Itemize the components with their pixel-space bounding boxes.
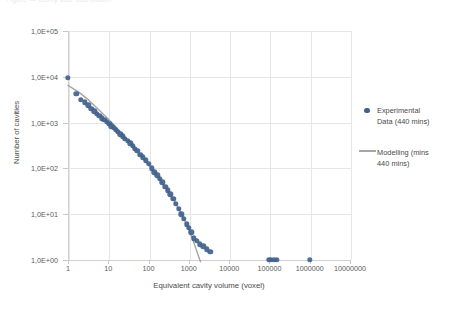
data-point [307, 257, 312, 262]
x-tick-label: 100 [143, 264, 155, 273]
y-tick-label: 1,0E+04 [0, 72, 58, 81]
x-tick-label: 1 [66, 264, 70, 273]
gridline-vertical [311, 31, 312, 260]
chart-container: Figure — cavity size distribution 1,0E+0… [0, 0, 457, 312]
gridline-vertical [69, 31, 70, 260]
gridline-horizontal [69, 214, 351, 215]
y-tick-mark [63, 123, 68, 124]
legend-item-experimental[interactable]: Experimental Data (440 mins) [357, 106, 455, 127]
x-tick-label: 1000 [181, 264, 197, 273]
gridline-vertical [351, 31, 352, 260]
y-tick-mark [63, 168, 68, 169]
y-tick-label: 1,0E+03 [0, 118, 58, 127]
y-tick-label: 1,0E+00 [0, 256, 58, 265]
gridline-horizontal [69, 31, 351, 32]
x-tick-label: 10 [104, 264, 112, 273]
x-tick-label: 10000000 [334, 264, 366, 273]
gridline-horizontal [69, 77, 351, 78]
gridline-vertical [270, 31, 271, 260]
legend-label-experimental: Experimental Data (440 mins) [377, 106, 430, 127]
plot-area [68, 31, 351, 260]
data-point [274, 257, 279, 262]
x-tick-label: 1000000 [296, 264, 324, 273]
y-tick-label: 1,0E+02 [0, 164, 58, 173]
legend-line-marker-icon [357, 148, 377, 152]
caption-remnant: Figure — cavity size distribution [6, 0, 111, 3]
legend-dot-marker-icon [357, 106, 377, 113]
x-axis-title: Equivalent cavity volume (voxel) [68, 281, 350, 290]
gridline-vertical [150, 31, 151, 260]
gridline-vertical [230, 31, 231, 260]
y-tick-mark [63, 31, 68, 32]
y-tick-mark [63, 214, 68, 215]
x-tick-label: 100000 [257, 264, 281, 273]
gridline-horizontal [69, 168, 351, 169]
legend-item-modelling[interactable]: Modelling (mins 440 mins) [357, 148, 455, 169]
y-axis-title: Number of cavities [12, 73, 21, 193]
gridline-vertical [109, 31, 110, 260]
y-tick-label: 1,0E+05 [0, 27, 58, 36]
y-tick-label: 1,0E+01 [0, 210, 58, 219]
y-axis-line [68, 31, 69, 260]
x-tick-label: 10000 [219, 264, 239, 273]
legend-label-modelling: Modelling (mins 440 mins) [377, 148, 429, 169]
chart-legend: Experimental Data (440 mins) Modelling (… [357, 106, 455, 191]
